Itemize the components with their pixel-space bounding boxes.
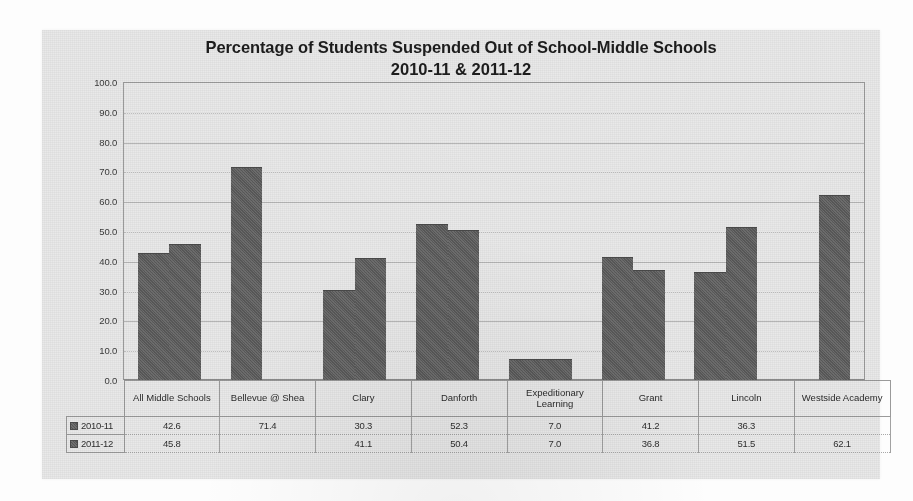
table-cell: 36.8 [603, 435, 699, 453]
bar-group [680, 82, 773, 380]
bar-group [772, 82, 865, 380]
table-cell [794, 417, 890, 435]
bars-layer [123, 82, 865, 380]
bar [694, 272, 726, 380]
table-cell: 42.6 [124, 417, 220, 435]
table-cell: 30.3 [316, 417, 412, 435]
bar [819, 195, 851, 380]
y-axis-tick-label: 60.0 [47, 196, 117, 207]
table-column-header: Lincoln [699, 381, 795, 417]
bar-group [309, 82, 402, 380]
legend-swatch-icon [70, 440, 78, 448]
table-cell: 41.1 [316, 435, 412, 453]
table-cell: 51.5 [699, 435, 795, 453]
table-cell: 62.1 [794, 435, 890, 453]
table-cell [220, 435, 316, 453]
table-column-header: Westside Academy [794, 381, 890, 417]
bar-group [494, 82, 587, 380]
bar [602, 257, 634, 380]
table-column-header: All Middle Schools [124, 381, 220, 417]
chart-subtitle: 2010-11 & 2011-12 [42, 58, 880, 80]
table-cell: 7.0 [507, 417, 603, 435]
y-axis-tick-label: 30.0 [47, 285, 117, 296]
bar [138, 253, 170, 380]
bar [509, 359, 541, 380]
bar [448, 230, 480, 380]
table-column-header: Expeditionary Learning [507, 381, 603, 417]
table-cell: 45.8 [124, 435, 220, 453]
bar [633, 270, 665, 380]
y-axis-tick-label: 70.0 [47, 166, 117, 177]
bar [169, 244, 201, 380]
chart-figure: Percentage of Students Suspended Out of … [42, 30, 880, 479]
table-cell: 36.3 [699, 417, 795, 435]
legend-entry[interactable]: 2010-11 [67, 417, 125, 435]
bar [726, 227, 758, 380]
legend-series-label: 2011-12 [81, 438, 113, 449]
table-header-row: All Middle SchoolsBellevue @ SheaClaryDa… [67, 381, 891, 417]
table-row: 2010-1142.671.430.352.37.041.236.3 [67, 417, 891, 435]
y-axis: 100.090.080.070.060.050.040.030.020.010.… [42, 82, 117, 380]
bar [416, 224, 448, 380]
table-column-header: Danforth [411, 381, 507, 417]
table-column-header: Grant [603, 381, 699, 417]
chart-title: Percentage of Students Suspended Out of … [42, 36, 880, 58]
y-axis-tick-label: 20.0 [47, 315, 117, 326]
table-column-header: Bellevue @ Shea [220, 381, 316, 417]
legend-entry[interactable]: 2011-12 [67, 435, 125, 453]
table-row: 2011-1245.841.150.47.036.851.562.1 [67, 435, 891, 453]
y-axis-tick-label: 40.0 [47, 255, 117, 266]
table-cell: 7.0 [507, 435, 603, 453]
data-table-head: All Middle SchoolsBellevue @ SheaClaryDa… [67, 381, 891, 417]
data-table-body: 2010-1142.671.430.352.37.041.236.32011-1… [67, 417, 891, 453]
table-cell: 52.3 [411, 417, 507, 435]
bar [355, 258, 387, 380]
bar [323, 290, 355, 380]
bar [540, 359, 572, 380]
table-corner-cell [67, 381, 125, 417]
bar [231, 167, 263, 380]
legend-swatch-icon [70, 422, 78, 430]
table-column-header: Clary [316, 381, 412, 417]
bar-group [587, 82, 680, 380]
table-cell: 41.2 [603, 417, 699, 435]
y-axis-tick-label: 50.0 [47, 226, 117, 237]
y-axis-tick-label: 80.0 [47, 136, 117, 147]
bar-group [216, 82, 309, 380]
table-cell: 71.4 [220, 417, 316, 435]
table-cell: 50.4 [411, 435, 507, 453]
scanned-page: Percentage of Students Suspended Out of … [0, 0, 913, 501]
y-axis-tick-label: 90.0 [47, 106, 117, 117]
data-table: All Middle SchoolsBellevue @ SheaClaryDa… [66, 380, 891, 453]
legend-series-label: 2010-11 [81, 420, 113, 431]
y-axis-tick-label: 10.0 [47, 345, 117, 356]
chart-title-block: Percentage of Students Suspended Out of … [42, 36, 880, 80]
bar-group [401, 82, 494, 380]
bar-group [123, 82, 216, 380]
